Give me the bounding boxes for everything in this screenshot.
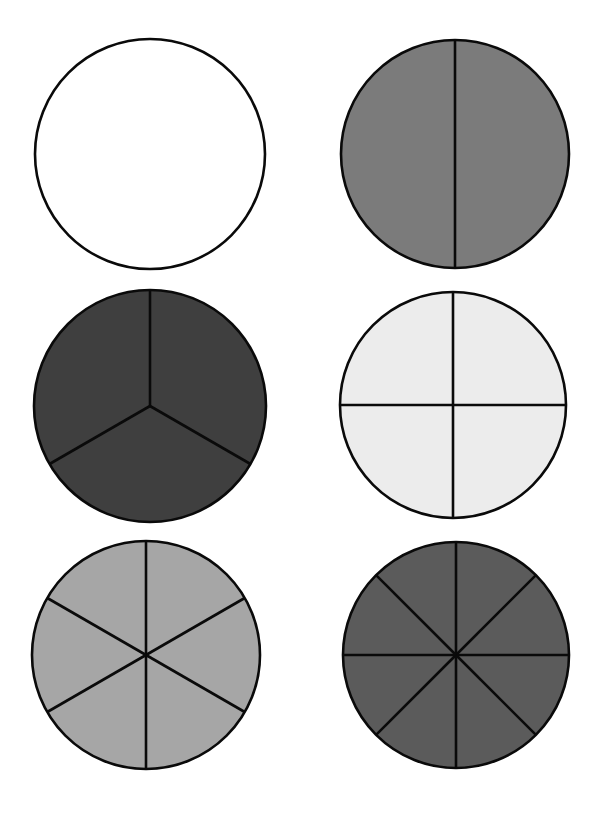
fraction-circle-whole <box>35 39 265 269</box>
fraction-circles-diagram <box>0 0 601 816</box>
fraction-circle-halves <box>341 40 569 268</box>
fraction-circle-thirds <box>34 290 266 522</box>
circle-outline <box>35 39 265 269</box>
fraction-circle-eighths <box>343 542 569 768</box>
fraction-circle-quarters <box>340 292 566 518</box>
fraction-circle-sixths <box>32 541 260 769</box>
